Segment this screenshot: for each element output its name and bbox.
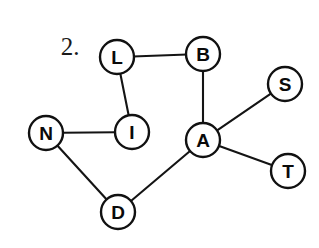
node-label-d: D — [111, 202, 125, 223]
graph-svg: LBSNIATD 2. — [0, 0, 319, 248]
node-label-a: A — [196, 130, 210, 151]
diagram-canvas: LBSNIATD 2. — [0, 0, 319, 248]
node-label-n: N — [39, 123, 53, 144]
graph-edge-a-s — [216, 93, 272, 131]
graph-node-l[interactable]: L — [100, 40, 134, 74]
node-label-s: S — [279, 74, 292, 95]
node-label-t: T — [282, 161, 294, 182]
graph-edge-a-t — [218, 145, 273, 165]
graph-edge-n-d — [57, 145, 108, 201]
graph-edge-l-i — [120, 72, 129, 116]
graph-node-s[interactable]: S — [268, 67, 302, 101]
node-label-b: B — [196, 44, 210, 65]
node-label-i: I — [129, 122, 134, 143]
graph-edge-l-b — [133, 55, 187, 57]
graph-edge-d-a — [130, 150, 191, 202]
graph-node-i[interactable]: I — [115, 115, 149, 149]
edges-group — [57, 55, 274, 202]
graph-node-n[interactable]: N — [29, 116, 63, 150]
graph-node-a[interactable]: A — [186, 123, 220, 157]
graph-edge-n-i — [62, 132, 116, 133]
graph-node-b[interactable]: B — [186, 37, 220, 71]
graph-node-d[interactable]: D — [101, 195, 135, 229]
graph-node-t[interactable]: T — [271, 154, 305, 188]
problem-number-label: 2. — [61, 33, 80, 60]
node-label-l: L — [111, 47, 123, 68]
